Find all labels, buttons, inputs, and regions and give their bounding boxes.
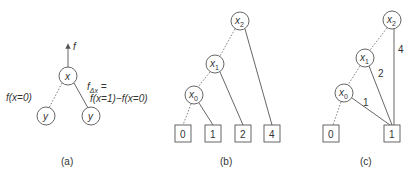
terminal-0-label: 0 [328, 129, 334, 140]
edge-x0-high [352, 98, 390, 125]
panel-c: x2 x1 x0 4 2 1 0 1 (c) [323, 11, 404, 167]
diagram-canvas: f x y y f(x=0) fΔx = f(x=1)−f(x=0) (a) x… [0, 0, 416, 175]
edge-weight-1: 1 [363, 97, 369, 108]
panel-b: x2 x1 x0 0 1 2 4 (b) [175, 12, 280, 167]
node-y-high-label: y [87, 111, 94, 122]
edge-x2-high [245, 29, 272, 125]
edge-weight-2: 2 [378, 68, 384, 79]
node-x-label: x [64, 71, 71, 82]
edge-x2-low [220, 29, 235, 56]
edge-x1-low [348, 66, 360, 85]
panel-a: f x y y f(x=0) fΔx = f(x=1)−f(x=0) (a) [6, 41, 148, 167]
high-edge-label-f: fΔx = [87, 81, 107, 94]
caption-a: (a) [61, 156, 73, 167]
low-edge-label: f(x=0) [6, 92, 32, 103]
edge-x0-high [199, 103, 213, 125]
output-arrow-label: f [73, 41, 77, 52]
edge-weight-4: 4 [398, 44, 404, 55]
edge-x1-low [198, 72, 210, 87]
edge-x0-low [333, 102, 341, 125]
node-y-low-label: y [42, 111, 49, 122]
edge-x1-high [220, 72, 243, 125]
caption-b: (b) [220, 156, 232, 167]
low-edge [49, 83, 62, 108]
edge-x2-low [370, 28, 387, 50]
terminal-1-label: 1 [389, 129, 395, 140]
terminal-1-label: 1 [210, 129, 216, 140]
caption-c: (c) [360, 156, 372, 167]
diagram-svg: f x y y f(x=0) fΔx = f(x=1)−f(x=0) (a) x… [0, 0, 416, 175]
edge-x0-low [183, 104, 191, 125]
terminal-0-label: 0 [180, 129, 186, 140]
high-edge [74, 83, 88, 108]
terminal-4-label: 4 [269, 129, 275, 140]
terminal-2-label: 2 [240, 129, 246, 140]
high-edge-label-expr: f(x=1)−f(x=0) [90, 93, 148, 104]
